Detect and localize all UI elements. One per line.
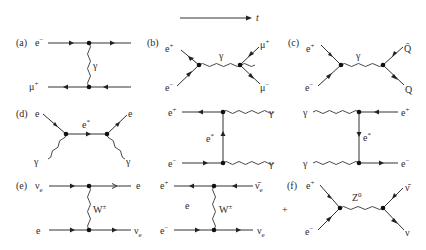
label-e-in: e xyxy=(36,225,41,236)
label-e-plus: e+ xyxy=(306,179,314,191)
label-photon-bottom: γ xyxy=(302,158,308,169)
label-e-star: e* xyxy=(82,118,90,130)
label-w-boson: W± xyxy=(219,203,232,215)
label-z-boson: Z0 xyxy=(352,191,362,203)
label-nu-e-bar: ν̄e xyxy=(255,180,263,194)
diagram-d-annihilation: e+ e− e* γ γ xyxy=(168,106,274,169)
label-photon: γ xyxy=(355,50,361,61)
label-e-propagator: e xyxy=(185,200,190,211)
diagram-d-compton: (d) e γ e* e γ xyxy=(16,108,133,167)
label-mu-plus: μ+ xyxy=(260,38,269,50)
label-photon: γ xyxy=(92,60,98,71)
label-e-plus: e+ xyxy=(160,179,168,191)
label-q: Q xyxy=(405,84,413,95)
label-e-plus: e+ xyxy=(168,106,176,118)
label-e-plus: e+ xyxy=(306,42,314,54)
label-nu-e: νe xyxy=(35,180,43,194)
label-w-boson: W± xyxy=(93,203,106,215)
feynman-diagrams-figure: t (a) e− μ+ γ (b) e+ e− γ μ+ μ− (c) xyxy=(0,0,426,250)
label-photon-bottom: γ xyxy=(268,158,274,169)
label-mu-minus: μ− xyxy=(260,81,269,93)
label-photon-in: γ xyxy=(33,156,39,167)
diagram-f: (f) e+ e− Z0 ν̄ ν xyxy=(287,179,412,238)
label-e-plus: e+ xyxy=(165,42,173,54)
label-e-minus: e− xyxy=(165,81,173,93)
label-nu-e-out: νe xyxy=(134,225,142,239)
label-mu-plus: μ+ xyxy=(29,80,38,92)
label-e-minus: e− xyxy=(35,36,43,48)
label-e-minus: e− xyxy=(401,157,409,169)
diagram-b: (b) e+ e− γ μ+ μ− xyxy=(147,37,269,93)
label-photon-top: γ xyxy=(268,107,274,118)
panel-tag-d: (d) xyxy=(16,108,28,120)
time-arrow: t xyxy=(180,12,259,23)
label-e-in: e xyxy=(35,108,40,119)
diagram-e-scattering: (e) νe e e νe W± xyxy=(16,180,142,239)
label-e-out: e xyxy=(136,180,141,191)
label-e-minus: e− xyxy=(160,224,168,236)
diagram-a: (a) e− μ+ γ xyxy=(16,36,131,92)
diagram-d-pair-production: γ γ e* e+ e− xyxy=(302,106,409,169)
label-e-out: e xyxy=(128,108,133,119)
label-photon-top: γ xyxy=(302,107,308,118)
label-e-minus: e− xyxy=(168,157,176,169)
time-axis-label: t xyxy=(256,12,259,23)
label-photon: γ xyxy=(218,50,224,61)
panel-tag-c: (c) xyxy=(288,37,299,49)
plus-sign: + xyxy=(282,204,288,215)
panel-tag-a: (a) xyxy=(16,37,27,49)
label-photon-out: γ xyxy=(125,156,131,167)
label-e-minus: e− xyxy=(305,81,313,93)
label-e-star: e* xyxy=(363,131,371,143)
panel-tag-b: (b) xyxy=(147,37,159,49)
panel-tag-e: (e) xyxy=(16,180,27,192)
label-nu-bar: ν̄ xyxy=(405,182,412,193)
label-nu: ν xyxy=(405,227,410,238)
label-q-bar: Q̄ xyxy=(404,43,412,54)
label-e-star: e* xyxy=(206,132,214,144)
label-nu-e: νe xyxy=(257,225,265,239)
label-e-plus: e+ xyxy=(401,106,409,118)
label-e-minus: e− xyxy=(305,225,313,237)
panel-tag-f: (f) xyxy=(287,180,297,192)
diagram-e-annihilation: e+ ν̄e e e− νe W± xyxy=(160,179,265,239)
diagram-c: (c) e+ e− γ Q̄ Q xyxy=(288,37,413,95)
